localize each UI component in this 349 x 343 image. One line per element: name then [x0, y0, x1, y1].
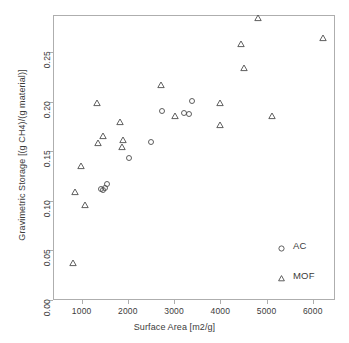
legend-label-ac: AC [293, 240, 307, 251]
x-tick-mark [82, 300, 83, 304]
legend-entry-ac: AC [276, 240, 307, 251]
data-point-mof [81, 201, 89, 209]
legend-entry-mof: MOF [276, 270, 315, 281]
data-point-mof [216, 121, 224, 129]
data-point-mof [254, 14, 262, 22]
x-tick-label: 6000 [303, 306, 323, 316]
data-point-ac [103, 181, 110, 188]
y-axis-label: Gravimetric Storage [(g CH4)/(g material… [17, 15, 27, 295]
y-tick-label: 0.05 [42, 249, 52, 273]
data-point-mof [240, 64, 248, 72]
data-point-mof [157, 81, 165, 89]
x-tick-label: 3000 [164, 306, 184, 316]
legend-label-mof: MOF [293, 270, 315, 281]
x-tick-label: 5000 [257, 306, 277, 316]
y-tick-label: 0.00 [42, 299, 52, 323]
data-point-ac [185, 110, 192, 117]
y-tick-label: 0.25 [42, 51, 52, 75]
data-point-mof [237, 40, 245, 48]
data-point-mof [77, 162, 85, 170]
data-point-mof [94, 139, 102, 147]
data-point-mof [118, 143, 126, 151]
y-tick-label: 0.10 [42, 200, 52, 224]
data-point-mof [119, 136, 127, 144]
data-point-ac [159, 107, 166, 114]
data-point-ac [148, 139, 155, 146]
data-point-ac [188, 97, 195, 104]
y-tick-label: 0.15 [42, 150, 52, 174]
x-tick-mark [128, 300, 129, 304]
y-tick-label: 0.20 [42, 101, 52, 125]
x-tick-mark [220, 300, 221, 304]
x-tick-label: 1000 [72, 306, 92, 316]
data-point-mof [99, 132, 107, 140]
x-tick-mark [313, 300, 314, 304]
data-point-mof [216, 99, 224, 107]
data-point-mof [268, 112, 276, 120]
data-point-mof [171, 112, 179, 120]
circle-marker-icon [276, 240, 287, 251]
x-tick-label: 4000 [210, 306, 230, 316]
x-tick-mark [267, 300, 268, 304]
x-axis-label: Surface Area [m2/g] [0, 322, 349, 332]
data-point-mof [116, 118, 124, 126]
x-tick-mark [174, 300, 175, 304]
plot-area [53, 15, 335, 300]
data-point-mof [69, 259, 77, 267]
data-point-mof [319, 34, 327, 42]
triangle-marker-icon [276, 270, 287, 281]
data-point-ac [125, 155, 132, 162]
data-point-mof [93, 99, 101, 107]
scatter-chart-figure: 100020003000400050006000 0.000.050.100.1… [0, 0, 349, 343]
x-tick-label: 2000 [118, 306, 138, 316]
data-point-mof [71, 188, 79, 196]
